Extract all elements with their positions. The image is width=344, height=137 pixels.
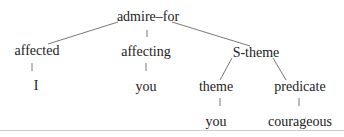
node-i: I (34, 78, 39, 94)
node-predicate: predicate (274, 79, 325, 95)
node-root: admire–for (117, 9, 179, 25)
divider (0, 130, 344, 131)
node-affecting: affecting (121, 44, 171, 60)
node-you: you (136, 79, 157, 95)
node-courageous: courageous (268, 114, 332, 130)
node-theme: theme (199, 79, 233, 95)
node-s-theme: S-theme (233, 45, 280, 61)
node-affected: affected (15, 43, 60, 59)
node-you-theme: you (206, 114, 227, 130)
